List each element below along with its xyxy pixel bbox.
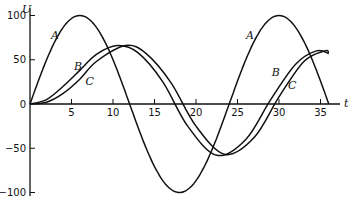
x-tick-label: 25 (231, 107, 244, 118)
y-tick-label: 50 (13, 54, 26, 65)
x-tick-label: 35 (314, 107, 327, 118)
y-tick-label: −100 (0, 187, 26, 198)
curve-label-b: B (73, 60, 82, 73)
x-axis-label: t (344, 97, 349, 110)
curve-label-a: A (245, 29, 254, 42)
x-tick-label: 20 (190, 107, 203, 118)
chart: Ut5101520253035100500−50−100ABCABC (0, 0, 356, 209)
curve-label-b: B (271, 66, 280, 79)
x-tick-label: 5 (68, 107, 74, 118)
x-tick-label: 30 (273, 107, 286, 118)
curve-label-a: A (50, 29, 59, 42)
x-tick-label: 10 (107, 107, 120, 118)
y-tick-label: 100 (7, 10, 26, 21)
curve-label-c: C (288, 79, 297, 92)
curve-label-c: C (86, 75, 95, 88)
y-tick-label: 0 (20, 99, 26, 110)
x-tick-label: 15 (148, 107, 161, 118)
y-tick-label: −50 (5, 143, 26, 154)
line-chart: Ut5101520253035100500−50−100ABCABC (0, 0, 356, 209)
